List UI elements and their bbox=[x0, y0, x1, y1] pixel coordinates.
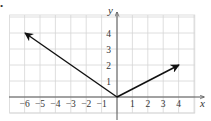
x-tick-label: 3 bbox=[161, 99, 166, 109]
x-tick-label: 2 bbox=[145, 99, 150, 109]
y-tick-label: 3 bbox=[106, 45, 111, 55]
x-tick-label: −6 bbox=[20, 99, 30, 109]
x-tick-label: 4 bbox=[176, 99, 181, 109]
y-axis-label: y bbox=[107, 4, 113, 16]
x-tick-label: −5 bbox=[35, 99, 45, 109]
coordinate-plane: −6−5−4−3−2−11234 1234 x y • bbox=[0, 0, 211, 121]
y-tick-label: 1 bbox=[106, 77, 111, 87]
x-tick-label: −2 bbox=[81, 99, 91, 109]
x-tick-label: −4 bbox=[50, 99, 60, 109]
bullet-marker: • bbox=[0, 1, 3, 11]
x-tick-label: 1 bbox=[130, 99, 135, 109]
x-axis-label: x bbox=[199, 97, 205, 109]
y-tick-labels: 1234 bbox=[106, 29, 111, 87]
x-tick-label: −1 bbox=[97, 99, 107, 109]
y-tick-label: 2 bbox=[106, 61, 111, 71]
y-tick-label: 4 bbox=[106, 29, 111, 39]
x-tick-labels: −6−5−4−3−2−11234 bbox=[20, 99, 182, 109]
x-tick-label: −3 bbox=[66, 99, 76, 109]
